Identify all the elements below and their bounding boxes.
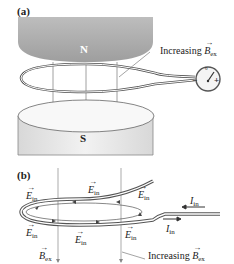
e-field-arrows <box>35 200 142 224</box>
e-field-label: Ein <box>138 190 150 202</box>
increasing-b-label-a: Increasing Bex <box>160 46 217 58</box>
meter-zero: 0 <box>205 66 208 71</box>
e-field-label: Ein <box>125 230 137 242</box>
north-magnet <box>18 17 153 62</box>
e-field-label: Ein <box>75 235 87 247</box>
meter-plus: + <box>214 76 219 85</box>
panel-a-label: (a) <box>17 6 30 17</box>
south-pole-label: S <box>80 133 86 144</box>
panel-b-label: (b) <box>17 170 30 181</box>
south-magnet <box>18 100 154 155</box>
increasing-b-label-b: Increasing Bex <box>148 251 205 263</box>
annotation-leader-b <box>122 252 145 259</box>
b-ex-label: Bex <box>39 251 52 263</box>
meter-minus: − <box>192 76 197 85</box>
current-label-out: Iin <box>166 224 175 236</box>
diagram-canvas <box>0 0 234 264</box>
current-label-in: Iin <box>190 196 199 208</box>
wire-loop-a <box>21 64 195 92</box>
e-field-label: Ein <box>26 228 38 240</box>
e-field-label: Ein <box>88 185 100 197</box>
e-field-label: Ein <box>26 191 38 203</box>
north-pole-label: N <box>80 44 88 55</box>
